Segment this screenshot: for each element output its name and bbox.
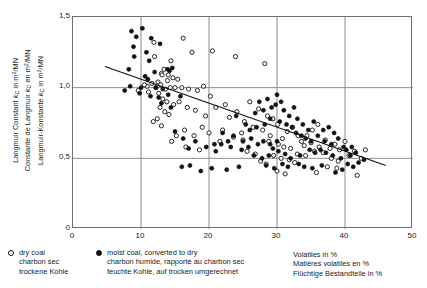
data-point <box>231 134 235 138</box>
data-point <box>303 153 307 157</box>
data-point <box>170 139 174 143</box>
y-tick-label: 0,5 <box>44 152 70 161</box>
legend-line: feuchte Kohle, auf trocken umgerechnet <box>107 267 244 276</box>
legend-line: charbon sec <box>19 257 68 266</box>
data-point <box>201 84 205 88</box>
data-point <box>302 165 306 169</box>
data-point <box>139 86 143 90</box>
data-point <box>272 153 276 157</box>
data-point <box>287 114 291 118</box>
y-tick-label: 1,5 <box>44 11 70 20</box>
data-point <box>171 76 175 80</box>
data-point <box>181 36 185 40</box>
data-point <box>275 139 279 143</box>
x-axis-title: Volatiles in % Matières volatiles en % F… <box>293 250 423 278</box>
legend-entry-dry-coal: dry coal charbon sec trockene Kohle <box>8 248 68 276</box>
data-point <box>159 124 163 128</box>
data-point <box>157 91 161 95</box>
data-point <box>244 122 248 126</box>
data-point <box>363 148 367 152</box>
data-point <box>245 149 249 153</box>
data-point <box>316 122 320 126</box>
data-point <box>248 128 252 132</box>
data-point <box>316 134 320 138</box>
data-point <box>158 42 162 46</box>
data-point <box>261 139 265 143</box>
data-point <box>173 129 177 133</box>
data-point <box>160 73 164 77</box>
data-point <box>199 169 203 173</box>
data-point <box>355 173 359 177</box>
data-point <box>185 105 189 109</box>
data-point <box>169 59 173 63</box>
data-point <box>340 168 344 172</box>
data-point <box>210 49 214 53</box>
data-point <box>223 103 227 107</box>
data-point <box>166 93 170 97</box>
data-point <box>159 101 163 105</box>
x-axis-ticks: 01020304050 <box>0 231 427 245</box>
data-point <box>286 165 290 169</box>
x-tick-label: 50 <box>397 231 427 240</box>
data-point <box>219 142 223 146</box>
data-point <box>227 115 231 119</box>
data-point <box>292 105 296 109</box>
data-layer <box>73 17 413 229</box>
data-point <box>246 145 250 149</box>
data-point <box>257 100 261 104</box>
chart-figure: Langmuir Constant kC in m2/MN Constante … <box>0 0 427 288</box>
data-point <box>207 131 211 135</box>
data-point <box>321 128 325 132</box>
data-point <box>140 26 144 30</box>
data-point <box>181 137 185 141</box>
data-point <box>157 96 161 100</box>
data-point <box>241 139 245 143</box>
data-point <box>265 97 269 101</box>
filled-circle-icon <box>96 250 102 256</box>
data-point <box>280 162 284 166</box>
data-point <box>357 161 361 165</box>
data-point <box>278 120 282 124</box>
data-point <box>190 50 194 54</box>
data-point <box>165 100 169 104</box>
data-point <box>163 110 167 114</box>
data-point <box>271 146 275 150</box>
data-point <box>176 77 180 81</box>
y-axis-title-line-fr: Constante de Langmuir kC en m2/MN <box>22 10 34 210</box>
data-point <box>180 86 184 90</box>
data-point <box>312 120 316 124</box>
data-point <box>346 162 350 166</box>
data-point <box>204 145 208 149</box>
data-point <box>193 139 197 143</box>
data-point <box>169 105 173 109</box>
data-point <box>348 154 352 158</box>
legend-line: moist coal, converted to dry <box>107 248 244 257</box>
data-point <box>297 162 301 166</box>
data-point <box>177 100 181 104</box>
data-point <box>327 125 331 129</box>
data-point <box>283 172 287 176</box>
data-point <box>268 134 272 138</box>
data-point <box>280 136 284 140</box>
data-point <box>167 112 171 116</box>
data-point <box>261 128 265 132</box>
data-point <box>313 151 317 155</box>
data-point <box>127 67 131 71</box>
data-point <box>274 103 278 107</box>
data-point <box>132 45 136 49</box>
data-point <box>255 125 259 129</box>
data-point <box>270 105 274 109</box>
data-point <box>229 145 233 149</box>
data-point <box>208 94 212 98</box>
data-point <box>267 154 271 158</box>
data-point <box>275 93 279 97</box>
data-point <box>180 165 184 169</box>
data-point <box>293 160 297 164</box>
data-point <box>332 131 336 135</box>
scatter-points-filled <box>123 26 366 174</box>
x-axis-title-line-en: Volatiles in % <box>293 250 423 259</box>
data-point <box>144 50 148 54</box>
data-point <box>276 149 280 153</box>
data-point <box>197 148 201 152</box>
data-point <box>299 139 303 143</box>
